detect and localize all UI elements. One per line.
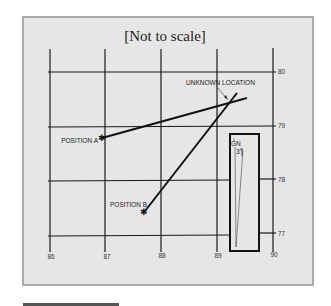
y-tick-78: 78	[278, 176, 286, 183]
x-tick-87: 87	[103, 253, 111, 260]
position-a-marker-icon: ✱	[98, 133, 106, 143]
inset-box	[230, 134, 259, 251]
grid-north-line	[235, 147, 236, 247]
position-a-label: POSITION A	[61, 137, 99, 144]
magnetic-north-line	[236, 150, 243, 247]
x-tick-88: 88	[158, 252, 166, 259]
x-tick-89: 89	[214, 252, 222, 259]
grid-north-label: GN	[231, 140, 241, 147]
diagram-title: [Not to scale]	[124, 28, 206, 44]
bearing-line-b	[145, 93, 237, 211]
x-tick-90: 90	[270, 251, 278, 258]
position-b-marker-icon: ✱	[140, 207, 148, 217]
y-tick-79: 79	[278, 122, 286, 129]
y-tick-77: 77	[278, 230, 286, 237]
y-tick-80: 80	[278, 68, 286, 75]
unknown-location-label: UNKNOWN LOCATION	[186, 79, 255, 86]
bearing-diagram: [Not to scale] 80 79 78 77 86 87 88 89 9…	[0, 0, 331, 306]
position-b-label: POSITION B	[110, 201, 147, 208]
bearing-line-a	[102, 98, 247, 138]
x-tick-86: 86	[47, 253, 55, 260]
